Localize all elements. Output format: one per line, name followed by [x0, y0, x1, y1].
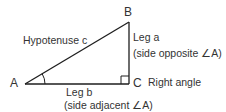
leg-a-note: (side opposite ∠A)	[133, 47, 222, 59]
hypotenuse-label: Hypotenuse c	[23, 34, 87, 46]
angle-a-arc	[42, 74, 45, 84]
leg-a-label: Leg a	[133, 31, 159, 43]
leg-b-label: Leg b	[66, 86, 92, 98]
vertex-b-label: B	[124, 6, 132, 18]
right-triangle-diagram: B Hypotenuse c Leg a (side opposite ∠A) …	[0, 0, 226, 112]
hypotenuse-line	[25, 22, 129, 84]
right-angle-label: Right angle	[148, 76, 201, 88]
right-angle-marker	[121, 76, 129, 84]
leg-b-note: (side adjacent ∠A)	[64, 99, 153, 111]
vertex-c-label: C	[133, 77, 142, 89]
vertex-a-label: A	[10, 77, 18, 89]
